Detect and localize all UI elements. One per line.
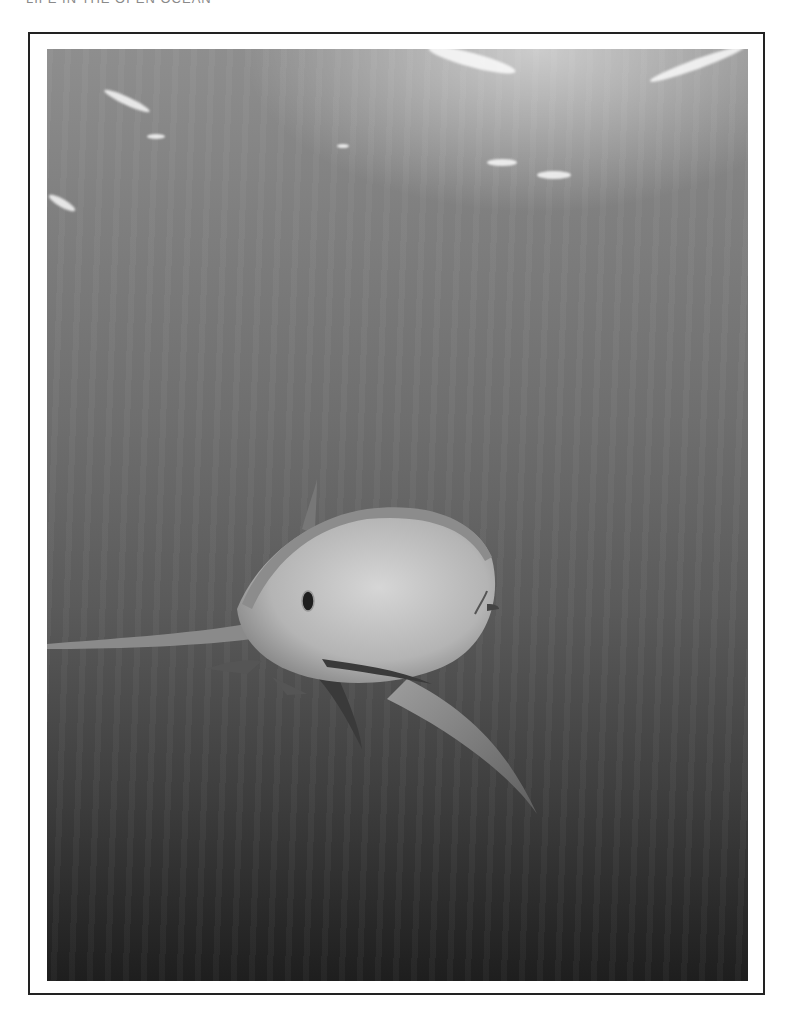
running-head: LIFE IN THE OPEN OCEAN <box>26 0 212 6</box>
shark-illustration <box>47 49 748 981</box>
shark-photo <box>47 49 748 981</box>
